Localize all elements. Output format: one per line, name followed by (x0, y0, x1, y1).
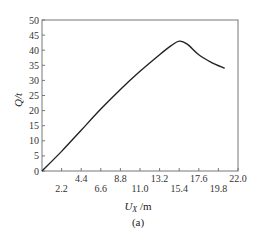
x-tick-label: 11.0 (131, 183, 148, 194)
x-tick-label: 6.6 (95, 183, 108, 194)
x-tick-label: 22.0 (229, 173, 247, 184)
y-tick-label: 20 (29, 105, 39, 116)
y-tick-label: 45 (29, 30, 39, 41)
figure-caption: (a) (132, 216, 145, 229)
y-tick-label: 0 (34, 166, 39, 177)
y-tick-label: 30 (29, 75, 39, 86)
x-tick-label: 15.4 (170, 183, 188, 194)
y-axis: 05101520253035404550 (29, 15, 45, 177)
y-tick-label: 25 (29, 90, 39, 101)
x-tick-label: 2.2 (55, 183, 68, 194)
y-tick-label: 40 (29, 45, 39, 56)
x-axis: 4.48.813.217.622.02.26.611.015.419.8 (55, 168, 246, 194)
y-tick-label: 35 (29, 60, 39, 71)
y-axis-label: Q/t (12, 92, 24, 107)
line-chart: 05101520253035404550 4.48.813.217.622.02… (0, 0, 258, 236)
y-tick-label: 10 (29, 135, 39, 146)
y-tick-label: 50 (29, 15, 39, 26)
plot-frame (42, 20, 238, 171)
x-tick-label: 8.8 (114, 173, 127, 184)
y-tick-label: 15 (29, 120, 39, 131)
y-tick-label: 5 (34, 150, 39, 161)
x-axis-label: UX /m (124, 200, 152, 214)
x-tick-label: 17.6 (190, 173, 208, 184)
x-tick-label: 4.4 (75, 173, 88, 184)
data-line (42, 41, 225, 171)
x-tick-label: 19.8 (210, 183, 228, 194)
x-tick-label: 13.2 (151, 173, 169, 184)
